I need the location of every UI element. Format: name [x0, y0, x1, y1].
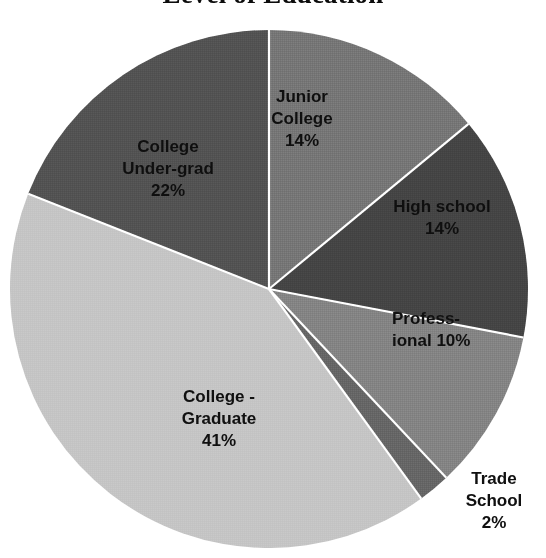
pie-chart-canvas — [10, 30, 528, 548]
pie-chart-figure: Level of Education Junior College 14% Co… — [0, 0, 546, 558]
pie-svg — [10, 30, 528, 548]
chart-title: Level of Education — [0, 0, 546, 9]
